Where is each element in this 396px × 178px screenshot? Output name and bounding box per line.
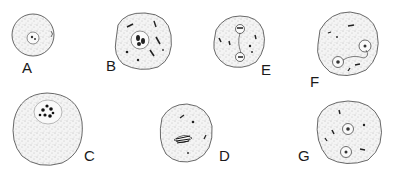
- label-b: B: [106, 58, 116, 73]
- cell-c: [13, 93, 82, 165]
- nucleus: [27, 32, 39, 44]
- cell-f: [318, 12, 379, 76]
- label-g: G: [298, 148, 310, 163]
- nucleus: [131, 31, 149, 49]
- cell-b: [115, 13, 171, 69]
- cell-figure: [0, 0, 396, 178]
- label-c: C: [84, 148, 95, 163]
- label-a: A: [22, 60, 32, 75]
- cell-e: [214, 16, 265, 67]
- nucleus: [34, 100, 62, 124]
- cell-d: [160, 104, 212, 162]
- cell-a: [12, 14, 54, 56]
- cell-g: [317, 101, 381, 164]
- label-f: F: [310, 74, 319, 89]
- label-d: D: [219, 148, 230, 163]
- label-e: E: [261, 62, 271, 77]
